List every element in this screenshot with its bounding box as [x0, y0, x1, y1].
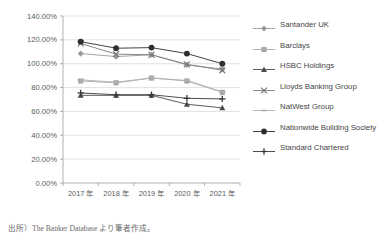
legend-label: Nationwide Building Society — [280, 123, 376, 133]
svg-text:2019 年: 2019 年 — [139, 189, 165, 198]
legend-label: HSBC Holdings — [280, 61, 334, 71]
line-chart-svg: 0.00%20.00%40.00%60.00%80.00%100.00%120.… — [0, 0, 250, 212]
legend-item-natwest-group[interactable]: NatWest Group — [252, 102, 388, 113]
gridlines — [63, 16, 240, 183]
chart-legend: Santander UKBarclaysHSBC HoldingsLloyds … — [252, 20, 388, 164]
y-axis-tick-labels: 0.00%20.00%40.00%60.00%80.00%100.00%120.… — [27, 12, 57, 188]
x-axis-tick-labels: 2017 年2018 年2019 年2020 年2021 年 — [68, 189, 236, 198]
legend-item-barclays[interactable]: Barclays — [252, 41, 388, 52]
svg-text:60.00%: 60.00% — [31, 107, 57, 116]
legend-label: NatWest Group — [280, 102, 334, 112]
legend-label: Barclays — [280, 41, 310, 51]
legend-item-nationwide-building-society[interactable]: Nationwide Building Society — [252, 123, 388, 134]
legend-label: Lloyds Banking Group — [280, 82, 357, 92]
svg-text:140.00%: 140.00% — [27, 12, 57, 21]
svg-text:120.00%: 120.00% — [27, 35, 57, 44]
svg-text:2021 年: 2021 年 — [210, 189, 236, 198]
legend-marker-triangle-icon — [252, 61, 276, 72]
legend-item-standard-chartered[interactable]: Standard Chartered — [252, 143, 388, 154]
axis-lines — [60, 16, 240, 186]
legend-marker-diamond-icon — [252, 20, 276, 31]
plot-area: 0.00%20.00%40.00%60.00%80.00%100.00%120.… — [0, 0, 250, 212]
data-series-group — [78, 39, 226, 111]
legend-marker-circle-icon — [252, 123, 276, 134]
svg-text:2020 年: 2020 年 — [174, 189, 200, 198]
svg-text:80.00%: 80.00% — [31, 83, 57, 92]
svg-text:40.00%: 40.00% — [31, 131, 57, 140]
legend-marker-square-icon — [252, 41, 276, 52]
source-note: 出所）The Banker Database より筆者作成。 — [8, 222, 155, 233]
legend-label: Standard Chartered — [280, 143, 348, 153]
series-standard-chartered — [78, 90, 226, 102]
series-santander-uk — [78, 50, 226, 72]
svg-text:100.00%: 100.00% — [27, 59, 57, 68]
legend-item-lloyds-banking-group[interactable]: Lloyds Banking Group — [252, 82, 388, 93]
legend-marker-plus-icon — [252, 143, 276, 154]
legend-marker-x-icon — [252, 82, 276, 93]
svg-text:20.00%: 20.00% — [31, 155, 57, 164]
legend-marker-dash-icon — [252, 102, 276, 113]
legend-item-santander-uk[interactable]: Santander UK — [252, 20, 388, 31]
legend-item-hsbc-holdings[interactable]: HSBC Holdings — [252, 61, 388, 72]
svg-text:2018 年: 2018 年 — [103, 189, 129, 198]
legend-label: Santander UK — [280, 20, 329, 30]
chart-figure: 0.00%20.00%40.00%60.00%80.00%100.00%120.… — [0, 0, 388, 239]
svg-text:2017 年: 2017 年 — [68, 189, 94, 198]
svg-text:0.00%: 0.00% — [35, 179, 57, 188]
